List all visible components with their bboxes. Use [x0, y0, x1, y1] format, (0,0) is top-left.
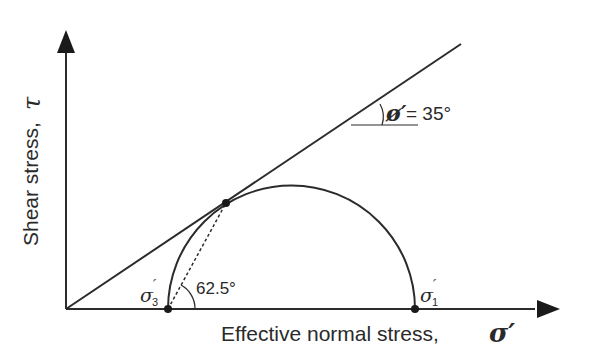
y-axis [57, 30, 75, 309]
x-axis-label: Effective normal stress, [221, 322, 439, 345]
phi-symbol: ø′ [385, 100, 407, 126]
y-axis-arrow-icon [57, 30, 75, 53]
sigma-prime-symbol: σ′ [489, 318, 515, 348]
sigma3-point [164, 305, 172, 313]
sigma1-label: σ 1 ′ [420, 277, 438, 308]
phi-angle-arc [380, 104, 383, 125]
phi-angle-value: = 35° [406, 103, 451, 124]
svg-text:′: ′ [153, 277, 157, 293]
y-axis-label: Shear stress, [19, 122, 42, 246]
sigma3-label: σ 3 ′ [140, 277, 158, 308]
tau-symbol: τ [18, 96, 46, 110]
failure-envelope-line [66, 44, 461, 309]
x-axis-arrow-icon [537, 300, 560, 318]
y-axis-title: Shear stress, τ [18, 96, 46, 246]
svg-text:3: 3 [152, 296, 158, 308]
svg-text:′: ′ [433, 277, 437, 293]
sigma1-point [411, 305, 419, 313]
svg-text:1: 1 [432, 296, 438, 308]
failure-plane-angle-arc [181, 285, 195, 309]
failure-plane-angle-label: 62.5° [196, 279, 236, 298]
mohr-circle-diagram: Shear stress, τ Effective normal stress,… [0, 0, 593, 364]
tangent-point [222, 199, 230, 207]
